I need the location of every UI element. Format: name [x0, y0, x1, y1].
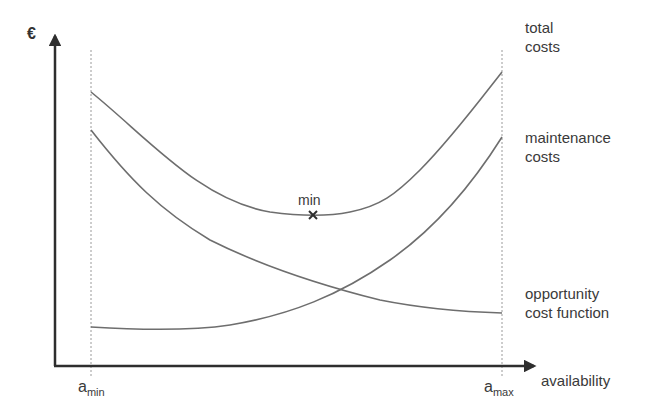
total-costs-curve	[91, 72, 502, 215]
a-min-tick-label: amin	[78, 377, 105, 398]
opportunity-cost-label-line1: opportunity	[525, 284, 609, 303]
a-max-base: a	[484, 378, 493, 395]
a-min-subscript: min	[87, 386, 105, 398]
a-max-subscript: max	[493, 386, 514, 398]
y-axis-label: €	[27, 25, 36, 43]
a-min-base: a	[78, 378, 87, 395]
total-costs-label-line2: costs	[525, 37, 560, 56]
opportunity-cost-label: opportunity cost function	[525, 284, 609, 322]
opportunity-cost-label-line2: cost function	[525, 303, 609, 322]
maintenance-costs-label: maintenance costs	[525, 128, 611, 166]
a-max-tick-label: amax	[484, 377, 514, 398]
maintenance-costs-label-line1: maintenance	[525, 128, 611, 147]
x-axis-label: availability	[541, 371, 610, 390]
total-costs-label-line1: total	[525, 18, 560, 37]
opportunity-cost-curve	[91, 130, 502, 313]
chart-canvas	[0, 0, 659, 420]
min-annotation-label: min	[298, 192, 321, 208]
total-costs-label: total costs	[525, 18, 560, 56]
maintenance-costs-label-line2: costs	[525, 147, 611, 166]
maintenance-costs-curve	[91, 137, 502, 329]
